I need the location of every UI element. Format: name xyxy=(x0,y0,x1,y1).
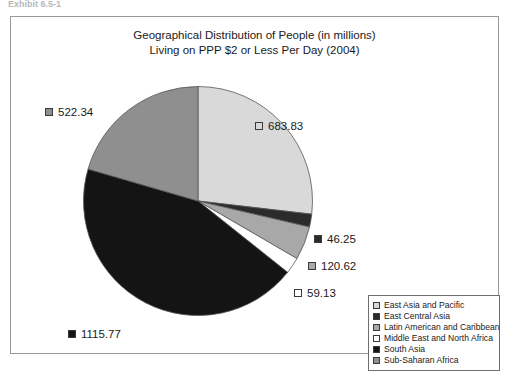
pie-slice xyxy=(198,87,313,215)
data-label-swatch-sub-saharan-africa xyxy=(45,108,53,116)
data-label-swatch-south-asia xyxy=(68,330,76,338)
data-label-latin-american-and-caribbean: 120.62 xyxy=(308,260,356,272)
data-label-swatch-latin-american-and-caribbean xyxy=(308,262,316,270)
data-label-value-east-asia-and-pacific: 683.83 xyxy=(268,120,303,132)
legend-swatch xyxy=(373,324,380,331)
legend-label: East Asia and Pacific xyxy=(384,300,464,311)
legend-label: Middle East and North Africa xyxy=(384,333,493,344)
legend-item: South Asia xyxy=(373,344,494,355)
data-label-east-asia-and-pacific: 683.83 xyxy=(255,120,303,132)
legend-label: East Central Asia xyxy=(384,311,450,322)
chart-legend: East Asia and PacificEast Central AsiaLa… xyxy=(368,295,500,371)
chart-title: Geographical Distribution of People (in … xyxy=(11,28,498,58)
legend-swatch xyxy=(373,335,380,342)
legend-swatch xyxy=(373,346,380,353)
data-label-value-middle-east-and-north-africa: 59.13 xyxy=(307,287,336,299)
exhibit-caption-sliver: Exhibit 6.5-1 xyxy=(8,0,128,7)
legend-item: Middle East and North Africa xyxy=(373,333,494,344)
legend-label: Latin American and Caribbean xyxy=(384,322,500,333)
data-label-swatch-east-asia-and-pacific xyxy=(255,122,263,130)
legend-swatch xyxy=(373,357,380,364)
data-label-value-latin-american-and-caribbean: 120.62 xyxy=(321,260,356,272)
legend-item: East Central Asia xyxy=(373,311,494,322)
data-label-value-sub-saharan-africa: 522.34 xyxy=(58,106,93,118)
legend-item: Latin American and Caribbean xyxy=(373,322,494,333)
data-label-swatch-east-central-asia xyxy=(314,235,322,243)
data-label-swatch-middle-east-and-north-africa xyxy=(294,289,302,297)
legend-item: Sub-Saharan Africa xyxy=(373,355,494,366)
data-label-value-south-asia: 1115.77 xyxy=(81,328,121,340)
data-label-middle-east-and-north-africa: 59.13 xyxy=(294,287,336,299)
legend-item: East Asia and Pacific xyxy=(373,300,494,311)
chart-frame: Geographical Distribution of People (in … xyxy=(10,16,499,354)
legend-label: South Asia xyxy=(384,344,425,355)
legend-label: Sub-Saharan Africa xyxy=(384,355,459,366)
data-label-east-central-asia: 46.25 xyxy=(314,233,356,245)
legend-swatch xyxy=(373,313,380,320)
data-label-sub-saharan-africa: 522.34 xyxy=(45,106,93,118)
data-label-south-asia: 1115.77 xyxy=(68,328,121,340)
legend-item-list: East Asia and PacificEast Central AsiaLa… xyxy=(373,300,494,366)
data-label-value-east-central-asia: 46.25 xyxy=(327,233,356,245)
legend-swatch xyxy=(373,302,380,309)
